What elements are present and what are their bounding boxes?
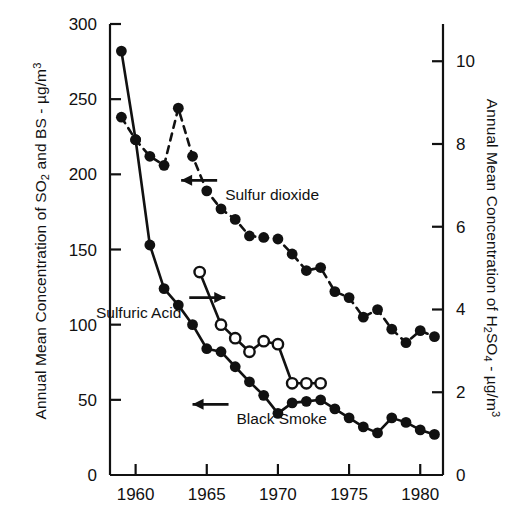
data-point-sulfuric-acid bbox=[244, 347, 254, 357]
data-point-black-smoke bbox=[230, 361, 241, 372]
y-axis-right-title-part-a: Annual Mean Concentration of H bbox=[484, 99, 501, 327]
data-point-black-smoke bbox=[258, 390, 269, 401]
data-point-black-smoke bbox=[315, 394, 326, 405]
data-point-black-smoke bbox=[344, 412, 355, 423]
data-point-sulfur-dioxide bbox=[429, 331, 440, 342]
y-axis-left-title: Annual Mean Concentration of SO2 and BS … bbox=[31, 11, 51, 471]
x-axis-tick-label: 1960 bbox=[117, 485, 155, 504]
data-point-black-smoke bbox=[301, 396, 312, 407]
data-point-sulfur-dioxide bbox=[386, 324, 397, 335]
chart-container: 0501001502002503000246810196019651970197… bbox=[0, 0, 526, 525]
data-point-sulfur-dioxide bbox=[401, 337, 412, 348]
y-axis-right-tick-label: 6 bbox=[456, 218, 465, 237]
x-axis-tick-label: 1975 bbox=[330, 485, 368, 504]
y-axis-right-title-part-c: - µg/m bbox=[484, 362, 501, 411]
data-point-sulfur-dioxide bbox=[144, 151, 155, 162]
data-point-sulfur-dioxide bbox=[372, 304, 383, 315]
data-point-sulfuric-acid bbox=[216, 319, 226, 329]
data-point-black-smoke bbox=[329, 403, 340, 414]
data-point-sulfur-dioxide bbox=[301, 265, 312, 276]
y-axis-right-tick-label: 10 bbox=[456, 52, 475, 71]
data-point-black-smoke bbox=[287, 397, 298, 408]
annotation-arrow-head bbox=[214, 292, 225, 303]
data-point-sulfur-dioxide bbox=[273, 234, 284, 245]
data-point-black-smoke bbox=[159, 283, 170, 294]
y-axis-left-tick-label: 50 bbox=[78, 391, 97, 410]
y-axis-right-title-sup: 3 bbox=[490, 411, 502, 417]
y-axis-left-tick-label: 200 bbox=[69, 165, 97, 184]
data-point-sulfur-dioxide bbox=[315, 262, 326, 273]
data-point-black-smoke bbox=[386, 412, 397, 423]
y-axis-right-tick-label: 0 bbox=[456, 466, 465, 485]
annotation-arrow-head bbox=[181, 175, 192, 186]
data-point-sulfuric-acid bbox=[230, 333, 240, 343]
y-axis-left-tick-label: 0 bbox=[88, 466, 97, 485]
data-point-sulfuric-acid bbox=[194, 267, 204, 277]
data-point-sulfuric-acid bbox=[287, 378, 297, 388]
annotation-arrow-head bbox=[193, 399, 204, 410]
data-point-sulfur-dioxide bbox=[173, 103, 184, 114]
data-point-black-smoke bbox=[429, 429, 440, 440]
data-point-sulfur-dioxide bbox=[244, 231, 255, 242]
y-axis-right-tick-label: 8 bbox=[456, 135, 465, 154]
data-point-black-smoke bbox=[130, 134, 141, 145]
data-point-sulfur-dioxide bbox=[201, 185, 212, 196]
x-axis-tick-label: 1980 bbox=[401, 485, 439, 504]
data-point-black-smoke bbox=[358, 421, 369, 432]
data-point-sulfuric-acid bbox=[301, 378, 311, 388]
data-point-sulfur-dioxide bbox=[230, 214, 241, 225]
y-axis-right-tick-label: 2 bbox=[456, 383, 465, 402]
data-point-sulfuric-acid bbox=[273, 339, 283, 349]
chart-plot-area: 0501001502002503000246810196019651970197… bbox=[0, 0, 526, 525]
data-point-black-smoke bbox=[201, 343, 212, 354]
y-axis-left-tick-label: 100 bbox=[69, 316, 97, 335]
y-axis-left-tick-label: 250 bbox=[69, 90, 97, 109]
data-point-sulfur-dioxide bbox=[329, 286, 340, 297]
data-point-sulfur-dioxide bbox=[216, 204, 227, 215]
data-point-black-smoke bbox=[372, 428, 383, 439]
data-point-black-smoke bbox=[216, 346, 227, 357]
data-point-black-smoke bbox=[116, 46, 127, 57]
y-axis-right-tick-label: 4 bbox=[456, 300, 465, 319]
data-point-black-smoke bbox=[187, 319, 198, 330]
y-axis-left-title-part-b: and BS - µg/m bbox=[32, 69, 49, 174]
data-point-sulfur-dioxide bbox=[187, 151, 198, 162]
data-point-sulfur-dioxide bbox=[116, 112, 127, 123]
y-axis-left-title-sup: 3 bbox=[31, 63, 43, 69]
data-point-sulfuric-acid bbox=[258, 336, 268, 346]
data-point-sulfuric-acid bbox=[315, 378, 325, 388]
data-point-sulfur-dioxide bbox=[287, 249, 298, 260]
data-point-black-smoke bbox=[144, 240, 155, 251]
data-point-black-smoke bbox=[244, 376, 255, 387]
data-point-sulfur-dioxide bbox=[358, 312, 369, 323]
annotation-label-black-smoke: Black Smoke bbox=[237, 410, 327, 427]
annotation-label-sulfuric-acid: Sulfuric Acid bbox=[96, 304, 181, 321]
x-axis-tick-label: 1965 bbox=[188, 485, 226, 504]
data-point-sulfur-dioxide bbox=[415, 325, 426, 336]
data-point-sulfur-dioxide bbox=[258, 232, 269, 243]
y-axis-left-title-sub: 2 bbox=[39, 174, 51, 180]
data-point-sulfur-dioxide bbox=[344, 292, 355, 303]
data-point-sulfur-dioxide bbox=[159, 160, 170, 171]
data-point-black-smoke bbox=[415, 425, 426, 436]
x-axis-tick-label: 1970 bbox=[259, 485, 297, 504]
y-axis-left-title-part-a: Annual Mean Concentration of SO bbox=[32, 180, 49, 419]
annotation-label-sulfur-dioxide: Sulfur dioxide bbox=[225, 186, 319, 203]
y-axis-left-tick-label: 150 bbox=[69, 241, 97, 260]
y-axis-right-title: Annual Mean Concentration of H2SO4 - µg/… bbox=[482, 28, 502, 488]
data-point-black-smoke bbox=[401, 417, 412, 428]
y-axis-right-title-part-b: SO bbox=[484, 333, 501, 356]
y-axis-left-tick-label: 300 bbox=[69, 15, 97, 34]
